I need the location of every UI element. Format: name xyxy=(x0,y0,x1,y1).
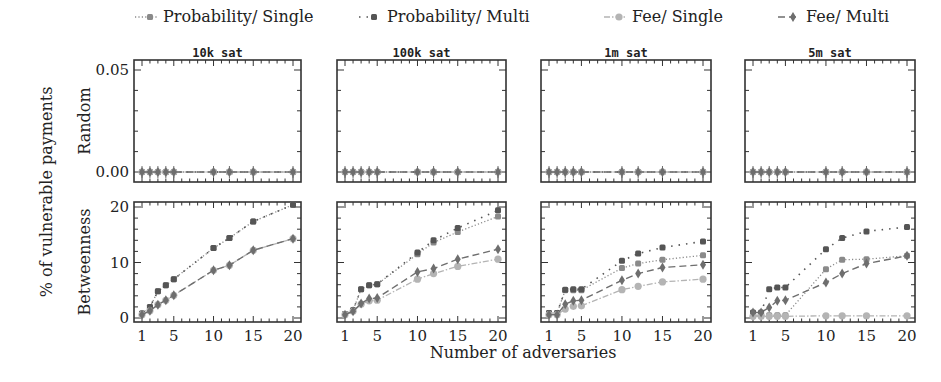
legend: Probability/ SingleProbability/ MultiFee… xyxy=(135,7,889,26)
data-point-x15 xyxy=(863,228,869,234)
legend-entry-probability-single: Probability/ Single xyxy=(135,7,314,26)
data-point-x5 xyxy=(171,276,177,282)
data-point-x20 xyxy=(495,207,501,213)
data-point-x4 xyxy=(774,313,781,320)
legend-marker-diamond xyxy=(790,12,796,22)
data-point-x12 xyxy=(226,235,232,241)
row-label-betweenness: Betweenness xyxy=(75,209,94,316)
x-tick-label: 5 xyxy=(781,327,791,345)
data-point-x5 xyxy=(782,284,788,290)
panel-random-10k-sat: 0.000.05Random10k sat xyxy=(75,46,301,182)
chart-canvas: Probability/ SingleProbability/ MultiFee… xyxy=(0,0,941,382)
data-point-x10 xyxy=(211,245,217,251)
data-point-x15 xyxy=(863,312,870,319)
panel-frame xyxy=(745,60,915,182)
data-point-x4 xyxy=(774,284,780,290)
panels: 0.000.05Random10k sat100k sat1m sat5m sa… xyxy=(75,46,917,345)
data-point-x4 xyxy=(570,286,576,292)
x-tick-label: 5 xyxy=(372,327,382,345)
x-tick-label: 1 xyxy=(340,327,350,345)
x-tick-label: 10 xyxy=(408,327,427,345)
data-point-x20 xyxy=(700,252,706,258)
data-point-x12 xyxy=(839,257,845,263)
x-tick-label: 15 xyxy=(244,327,263,345)
panel-frame xyxy=(541,60,711,182)
x-tick-label: 20 xyxy=(693,327,712,345)
panel-frame xyxy=(745,202,915,322)
x-tick-label: 1 xyxy=(748,327,758,345)
x-tick-label: 10 xyxy=(204,327,223,345)
y-tick-label: 0.05 xyxy=(96,61,129,79)
data-point-x3 xyxy=(766,313,773,320)
data-point-x10 xyxy=(822,312,829,319)
panel-random-100k-sat: 100k sat xyxy=(337,46,506,182)
legend-label: Probability/ Single xyxy=(163,7,314,26)
data-point-x5 xyxy=(782,313,789,320)
panel-betweenness-10k-sat: 01020Betweenness15101520 xyxy=(75,198,303,345)
row-label-random: Random xyxy=(75,87,94,154)
data-point-x15 xyxy=(659,257,665,263)
x-tick-label: 20 xyxy=(897,327,916,345)
data-point-x3 xyxy=(155,288,161,294)
y-tick-label: 0 xyxy=(119,309,129,327)
legend-entry-fee-single: Fee/ Single xyxy=(604,7,723,26)
x-tick-label: 10 xyxy=(816,327,835,345)
data-point-x12 xyxy=(635,283,642,290)
legend-marker-square xyxy=(147,14,153,20)
x-axis-label: Number of adversaries xyxy=(430,343,617,362)
data-point-x12 xyxy=(839,235,845,241)
panel-random-1m-sat: 1m sat xyxy=(541,46,711,182)
faceted-line-chart: Probability/ SingleProbability/ MultiFee… xyxy=(0,0,941,382)
legend-marker-square xyxy=(371,14,377,20)
column-title-100k-sat: 100k sat xyxy=(393,46,451,60)
column-title-5m-sat: 5m sat xyxy=(808,46,851,60)
data-point-x15 xyxy=(659,245,665,251)
panel-betweenness-5m-sat: 15101520 xyxy=(745,202,917,345)
legend-entry-fee-multi: Fee/ Multi xyxy=(778,7,889,26)
x-tick-label: 1 xyxy=(137,327,147,345)
data-point-x20 xyxy=(903,312,910,319)
data-point-x20 xyxy=(290,202,296,208)
data-point-x3 xyxy=(358,286,364,292)
data-point-x12 xyxy=(839,312,846,319)
data-point-x15 xyxy=(455,225,461,231)
data-point-x20 xyxy=(494,256,501,263)
data-point-x10 xyxy=(618,286,625,293)
data-point-x12 xyxy=(635,251,641,257)
data-point-x5 xyxy=(374,281,380,287)
legend-label: Probability/ Multi xyxy=(387,7,530,26)
data-point-x20 xyxy=(495,213,501,219)
panel-frame xyxy=(337,60,506,182)
x-tick-label: 5 xyxy=(169,327,179,345)
data-point-x20 xyxy=(699,276,706,283)
panel-frame xyxy=(134,60,301,182)
x-tick-label: 15 xyxy=(653,327,672,345)
data-point-x5 xyxy=(578,286,584,292)
data-point-x10 xyxy=(619,265,625,271)
data-point-x4 xyxy=(366,282,372,288)
panel-random-5m-sat: 5m sat xyxy=(745,46,915,182)
x-tick-label: 20 xyxy=(283,327,302,345)
data-point-x3 xyxy=(562,287,568,293)
data-point-x10 xyxy=(823,266,829,272)
data-point-x12 xyxy=(431,237,437,243)
legend-marker-circle xyxy=(615,13,622,20)
y-tick-label: 10 xyxy=(110,254,129,272)
data-point-x15 xyxy=(659,278,666,285)
y-tick-label: 20 xyxy=(110,198,129,216)
legend-label: Fee/ Multi xyxy=(806,7,889,26)
y-tick-label: 0.00 xyxy=(96,163,129,181)
x-tick-label: 15 xyxy=(857,327,876,345)
data-point-x12 xyxy=(635,261,641,267)
data-point-x20 xyxy=(700,238,706,244)
panel-betweenness-1m-sat: 15101520 xyxy=(541,202,713,345)
legend-label: Fee/ Single xyxy=(632,7,723,26)
data-point-x10 xyxy=(823,246,829,252)
data-point-x3 xyxy=(766,286,772,292)
data-point-x20 xyxy=(904,224,910,230)
column-title-10k-sat: 10k sat xyxy=(192,46,243,60)
y-axis-label: % of vulnerable payments xyxy=(37,87,56,298)
data-point-x10 xyxy=(414,250,420,256)
column-title-1m-sat: 1m sat xyxy=(604,46,647,60)
panel-betweenness-100k-sat: 15101520 xyxy=(337,202,508,345)
